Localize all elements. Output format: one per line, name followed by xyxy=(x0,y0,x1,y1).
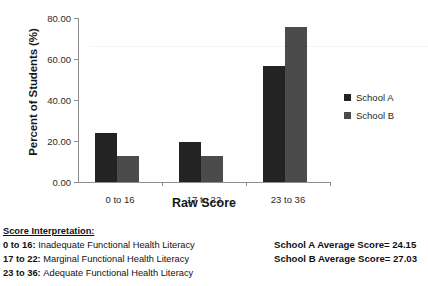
y-tick-label: 0.00 xyxy=(53,177,72,188)
chart-legend: School ASchool B xyxy=(344,92,394,128)
score-interpretation-row: 17 to 22: Marginal Functional Health Lit… xyxy=(3,252,195,266)
score-interpretation-range: 23 to 36: xyxy=(3,268,43,278)
x-tick-mark xyxy=(330,182,331,186)
y-tick-label: 60.00 xyxy=(47,54,71,65)
average-scores-block: School A Average Score= 24.15School B Av… xyxy=(274,238,417,265)
bar-school-a-17-to-22 xyxy=(179,142,201,182)
y-tick-mark xyxy=(74,18,78,19)
plot-area: 0.0020.0040.0060.0080.00 0 to 1617 to 22… xyxy=(78,18,330,182)
score-interpretation-description: Marginal Functional Health Literacy xyxy=(43,254,189,264)
score-interpretation-range: 0 to 16: xyxy=(3,240,38,250)
bar-school-a-0-to-16 xyxy=(95,133,117,182)
x-tick-mark xyxy=(246,182,247,186)
bar-school-b-17-to-22 xyxy=(201,156,223,182)
bar-school-b-0-to-16 xyxy=(117,156,139,182)
average-score-row: School B Average Score= 27.03 xyxy=(274,252,417,266)
x-tick-mark xyxy=(162,182,163,186)
score-interpretation-row: 23 to 36: Adequate Functional Health Lit… xyxy=(3,266,195,280)
score-interpretation-range: 17 to 22: xyxy=(3,254,43,264)
bar-chart-figure: Percent of Students (%) 0.0020.0040.0060… xyxy=(0,0,428,220)
scan-artifact-line xyxy=(90,46,428,47)
y-axis-line xyxy=(78,18,79,182)
bar-school-b-23-to-36 xyxy=(285,27,307,182)
score-interpretation-title: Score Interpretation: xyxy=(3,224,195,238)
y-tick-mark xyxy=(74,100,78,101)
y-tick-label: 40.00 xyxy=(47,95,71,106)
y-tick-mark xyxy=(74,59,78,60)
score-interpretation-block: Score Interpretation: 0 to 16: Inadequat… xyxy=(3,224,195,280)
legend-entry-school-b[interactable]: School B xyxy=(344,110,394,121)
y-axis-title: Percent of Students (%) xyxy=(27,12,39,172)
y-tick-label: 80.00 xyxy=(47,13,71,24)
legend-swatch-icon xyxy=(344,112,351,119)
score-interpretation-rows: 0 to 16: Inadequate Functional Health Li… xyxy=(3,238,195,280)
legend-label: School A xyxy=(356,92,394,103)
score-interpretation-description: Adequate Functional Health Literacy xyxy=(43,268,193,278)
average-score-row: School A Average Score= 24.15 xyxy=(274,238,417,252)
y-tick-mark xyxy=(74,141,78,142)
legend-swatch-icon xyxy=(344,94,351,101)
score-interpretation-description: Inadequate Functional Health Literacy xyxy=(38,240,195,250)
x-axis-line xyxy=(78,182,330,183)
legend-entry-school-a[interactable]: School A xyxy=(344,92,394,103)
bar-school-a-23-to-36 xyxy=(263,66,285,182)
x-axis-title: Raw Score xyxy=(78,196,330,210)
score-interpretation-row: 0 to 16: Inadequate Functional Health Li… xyxy=(3,238,195,252)
y-tick-mark xyxy=(74,182,78,183)
legend-label: School B xyxy=(356,110,394,121)
y-tick-label: 20.00 xyxy=(47,136,71,147)
